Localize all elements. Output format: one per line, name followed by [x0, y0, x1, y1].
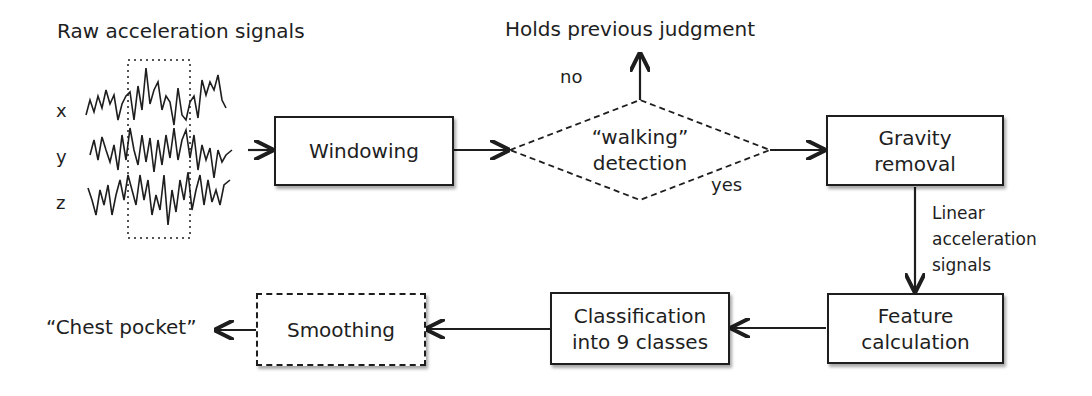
feature-calculation-line1: Feature [861, 303, 970, 329]
walking-detection-label: “walking” detection [570, 124, 710, 176]
feature-calculation-box: Feature calculation [827, 293, 1004, 364]
holds-previous-judgment: Holds previous judgment [505, 18, 755, 40]
smoothing-label: Smoothing [287, 317, 395, 343]
windowing-box: Windowing [274, 116, 454, 186]
linear-signals-line2: acceleration [932, 226, 1037, 252]
classification-line2: into 9 classes [572, 329, 708, 355]
waveform-y [90, 128, 232, 178]
gravity-removal-line2: removal [874, 151, 955, 177]
linear-signals-line1: Linear [932, 200, 1037, 226]
waveform-x [86, 68, 226, 125]
gravity-removal-line1: Gravity [874, 125, 955, 151]
classification-line1: Classification [572, 303, 708, 329]
walking-detection-line2: detection [570, 150, 710, 176]
output-label: “Chest pocket” [46, 316, 197, 338]
smoothing-box: Smoothing [256, 293, 426, 366]
linear-signals-line3: signals [932, 252, 1037, 278]
windowing-label: Windowing [309, 138, 419, 164]
gravity-removal-box: Gravity removal [826, 115, 1004, 186]
no-label: no [560, 66, 582, 88]
linear-acceleration-signals-label: Linear acceleration signals [932, 200, 1037, 278]
yes-label: yes [711, 174, 742, 196]
waveform-z [88, 172, 230, 225]
classification-box: Classification into 9 classes [550, 292, 730, 365]
walking-detection-line1: “walking” [570, 124, 710, 150]
feature-calculation-line2: calculation [861, 329, 970, 355]
